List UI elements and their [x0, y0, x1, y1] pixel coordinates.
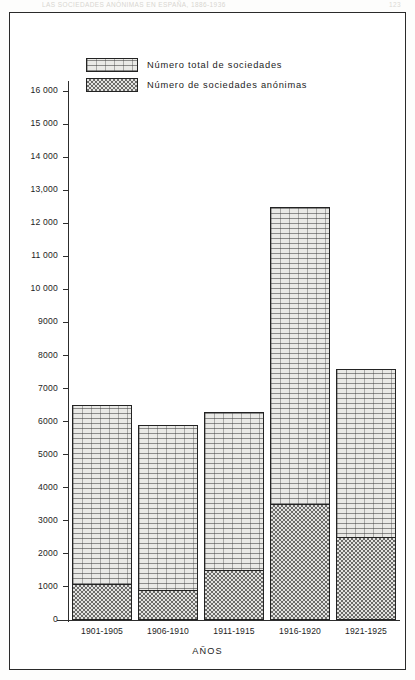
y-tick-mark	[63, 256, 69, 257]
y-tick-label: 12 000	[31, 217, 59, 227]
y-tick-mark	[63, 520, 69, 521]
running-title: LAS SOCIEDADES ANÓNIMAS EN ESPAÑA, 1886-…	[42, 1, 226, 8]
y-tick-label: 14 000	[31, 151, 59, 161]
chart-legend: Número total de sociedades Número de soc…	[86, 56, 307, 96]
y-tick-label: 5000	[38, 449, 58, 459]
y-tick-mark	[63, 620, 69, 621]
legend-swatch-total-icon	[86, 58, 138, 72]
bar-anonimas-1921-1925	[336, 537, 396, 620]
bar-anonimas-1911-1915	[204, 570, 264, 620]
figure-frame: Número total de sociedades Número de soc…	[9, 12, 406, 670]
y-tick-label: 9000	[38, 316, 58, 326]
x-axis-title: AÑOS	[10, 646, 405, 656]
y-tick-label: 2000	[38, 548, 58, 558]
chart-plot-area: Número total de sociedades Número de soc…	[10, 13, 405, 669]
y-tick-mark	[63, 157, 69, 158]
y-tick-label: 10 000	[31, 283, 59, 293]
x-tick-label-1901-1905: 1901-1905	[69, 626, 135, 636]
y-tick-mark	[63, 289, 69, 290]
y-tick-mark	[63, 355, 69, 356]
y-tick-mark	[63, 454, 69, 455]
y-tick-mark	[63, 586, 69, 587]
legend-item-anonimas: Número de sociedades anónimas	[86, 76, 307, 93]
y-tick-label: 4000	[38, 482, 58, 492]
bar-anonimas-1901-1905	[72, 584, 132, 620]
y-axis-line	[68, 81, 69, 622]
x-tick-label-1911-1915: 1911-1915	[201, 626, 267, 636]
x-tick-label-1916-1920: 1916-1920	[267, 626, 333, 636]
y-tick-label: 11 000	[31, 250, 58, 260]
y-tick-label: 16 000	[31, 85, 59, 95]
y-tick-mark	[63, 223, 69, 224]
y-tick-mark	[63, 421, 69, 422]
y-tick-mark	[63, 322, 69, 323]
y-tick-mark	[63, 487, 69, 488]
bar-anonimas-1916-1920	[270, 504, 330, 620]
y-tick-label: 15 000	[31, 118, 59, 128]
legend-swatch-anonimas-icon	[86, 78, 138, 92]
y-tick-label: 6000	[38, 416, 58, 426]
legend-item-total: Número total de sociedades	[86, 56, 307, 73]
bar-anonimas-1906-1910	[138, 590, 198, 620]
y-tick-label: 3000	[38, 515, 58, 525]
y-tick-mark	[63, 388, 69, 389]
page-folio-number: 123	[389, 1, 401, 8]
y-tick-mark	[63, 190, 69, 191]
y-tick-label: 13,000	[31, 184, 59, 194]
y-tick-mark	[63, 553, 69, 554]
y-tick-label: 0	[53, 614, 58, 624]
legend-label-total: Número total de sociedades	[147, 60, 282, 70]
x-tick-label-1906-1910: 1906-1910	[135, 626, 201, 636]
x-tick-label-1921-1925: 1921-1925	[333, 626, 399, 636]
y-tick-mark	[63, 124, 69, 125]
y-tick-label: 7000	[38, 383, 58, 393]
y-tick-label: 1000	[38, 581, 58, 591]
y-tick-mark	[63, 91, 69, 92]
legend-label-anonimas: Número de sociedades anónimas	[147, 80, 307, 90]
y-tick-label: 8000	[38, 350, 58, 360]
x-axis-line	[57, 620, 400, 621]
